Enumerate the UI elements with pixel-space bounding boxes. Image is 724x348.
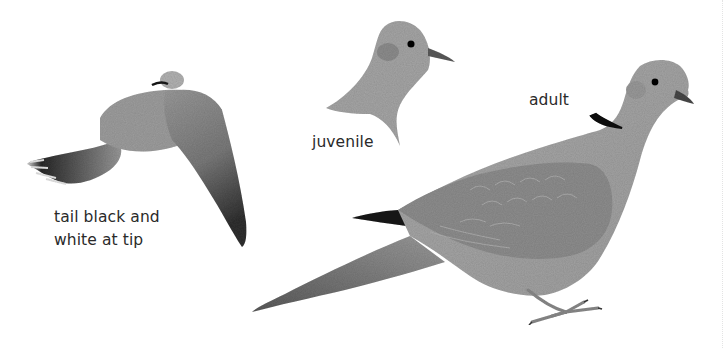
juvenile-label: juvenile — [312, 131, 374, 154]
flight-tail — [27, 140, 121, 184]
adult-label: adult — [529, 89, 569, 112]
adult-dove — [252, 60, 694, 325]
flight-wing — [164, 90, 246, 247]
flight-caption: tail black and white at tip — [54, 206, 160, 252]
flight-caption-line-2: white at tip — [54, 229, 160, 252]
bird-illustrations — [0, 0, 724, 348]
illustration-canvas: tail black and white at tip juvenile adu… — [0, 0, 724, 348]
adult-tail — [252, 236, 445, 312]
juvenile-dove-head — [326, 21, 455, 146]
flight-caption-line-1: tail black and — [54, 206, 160, 229]
